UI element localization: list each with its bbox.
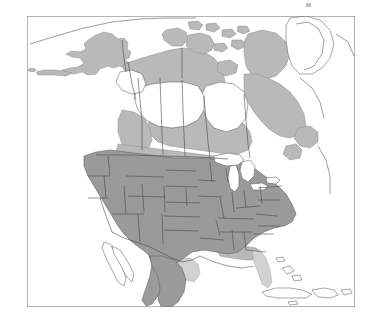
map-canvas — [0, 0, 380, 325]
island-bahamas-c — [276, 257, 285, 262]
distribution-range-map — [0, 0, 380, 325]
island-jamaica — [288, 301, 298, 305]
scan-artifact — [306, 3, 311, 7]
island-aleutian-west — [28, 68, 36, 71]
island-bahamas-b — [292, 275, 302, 281]
